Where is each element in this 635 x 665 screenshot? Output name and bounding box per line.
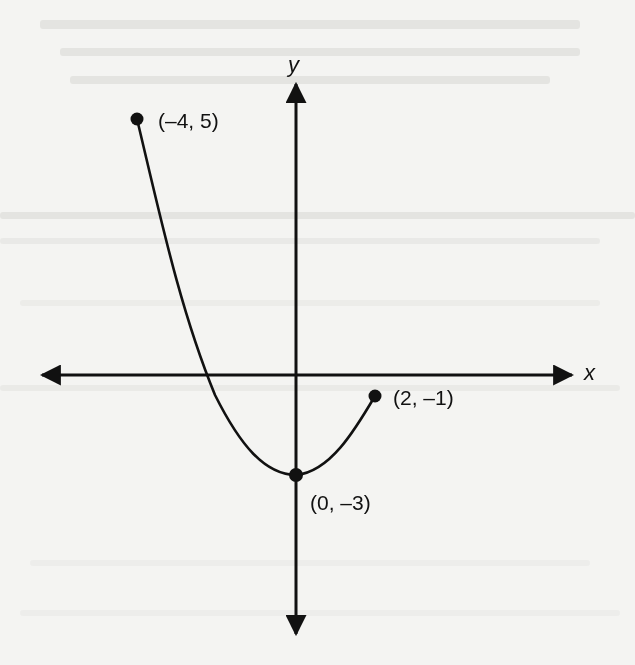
y-axis-label: y	[288, 54, 299, 76]
function-curve	[137, 119, 375, 475]
point-label-left: (–4, 5)	[158, 110, 219, 131]
point-endpoint-right	[369, 390, 382, 403]
point-label-right: (2, –1)	[393, 387, 454, 408]
point-label-minimum: (0, –3)	[310, 492, 371, 513]
diagram-canvas: y x (–4, 5) (0, –3) (2, –1)	[0, 0, 635, 665]
point-minimum	[289, 468, 303, 482]
function-graph	[0, 0, 635, 665]
x-axis-label: x	[584, 362, 595, 384]
point-endpoint-left	[131, 113, 144, 126]
